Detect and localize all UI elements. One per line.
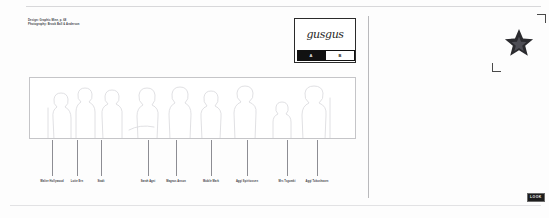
- caption-label: Magnus Anson: [166, 180, 186, 183]
- leader-line: [52, 140, 53, 176]
- leader-line: [176, 140, 177, 176]
- leader-line: [317, 140, 318, 176]
- gusgus-logo-card: gusgus A B: [294, 18, 356, 63]
- caption-label: Mobile Mark: [203, 180, 219, 183]
- crop-mark-top-right-icon: [537, 14, 546, 23]
- vertical-divider: [368, 16, 369, 198]
- caption-label: Walter Hollywood: [40, 180, 63, 183]
- credits-line-photography: Photography: Brook Ball & Anderson: [28, 23, 148, 27]
- top-rule: [26, 6, 541, 7]
- caption-label: Aggi Spiritussen: [236, 180, 258, 183]
- star-plate: [492, 14, 546, 72]
- caption-label: Stadt: [98, 180, 105, 183]
- star-icon: [504, 28, 534, 58]
- credits-block: Design: Graphic Mine, p. 68 Photography:…: [28, 19, 148, 27]
- caption-label: Lotte Ern: [71, 180, 83, 183]
- look-badge[interactable]: LOOK: [527, 193, 545, 202]
- caption-label: Mrs Tsgomki: [279, 180, 296, 183]
- leader-line: [211, 140, 212, 176]
- crop-mark-bottom-left-icon: [492, 63, 501, 72]
- caption-label: Aggi Tokoshasen: [306, 180, 329, 183]
- caption-label: Sarah Agni: [141, 180, 156, 183]
- silhouette-figures: [30, 78, 356, 139]
- leader-line: [148, 140, 149, 176]
- silhouette-panel: [29, 77, 356, 139]
- leader-line: [247, 140, 248, 176]
- bottom-rule: [10, 205, 541, 206]
- leader-line: [77, 140, 78, 176]
- artboard: Design: Graphic Mine, p. 68 Photography:…: [0, 0, 549, 218]
- leader-line: [101, 140, 102, 176]
- logo-cell-dark: A: [297, 50, 325, 61]
- logo-color-bar: A B: [297, 50, 355, 61]
- logo-cell-light: B: [325, 50, 355, 61]
- gusgus-wordmark: gusgus: [295, 19, 355, 49]
- leader-line: [287, 140, 288, 176]
